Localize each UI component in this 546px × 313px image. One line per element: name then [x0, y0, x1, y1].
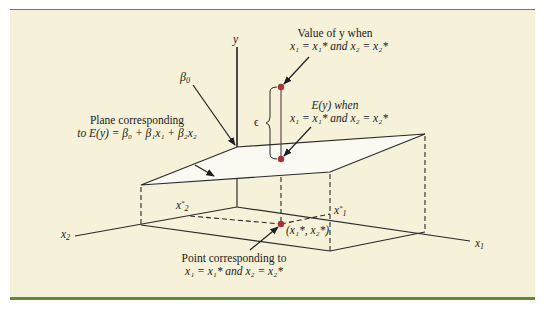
- ground-rectangle: [141, 225, 425, 251]
- beta0-label: β0: [180, 71, 190, 84]
- expected-y-point: [278, 156, 284, 162]
- y-axis-label: y: [233, 33, 238, 46]
- value-of-y-annotation: Value of y when x₁ = x₁* and x₂ = x₂*: [290, 27, 380, 53]
- x1-axis: [237, 207, 470, 241]
- observed-y-point: [278, 84, 284, 90]
- point-coordinates-label: (x₁*, x₂*): [286, 224, 329, 237]
- plane-annotation: Plane corresponding to E(y) = β₀ + β₁x₁ …: [66, 114, 208, 140]
- x2-axis: [75, 207, 237, 236]
- x-point: [278, 221, 284, 227]
- ey-when-annotation: E(y) when x₁ = x₁* and x₂ = x₂*: [290, 99, 380, 125]
- x2-axis-label: x2: [61, 228, 70, 241]
- point-arrow: [250, 227, 278, 250]
- epsilon-label: ϵ: [254, 116, 259, 129]
- value-of-y-arrow: [284, 57, 309, 84]
- x1-star-tick-label: x*1: [334, 204, 347, 217]
- x1-axis-label: x1: [475, 237, 484, 250]
- x2-star-tick-label: x*2: [176, 199, 189, 212]
- point-corresponding-annotation: Point corresponding to x₁ = x₁* and x₂ =…: [172, 252, 296, 278]
